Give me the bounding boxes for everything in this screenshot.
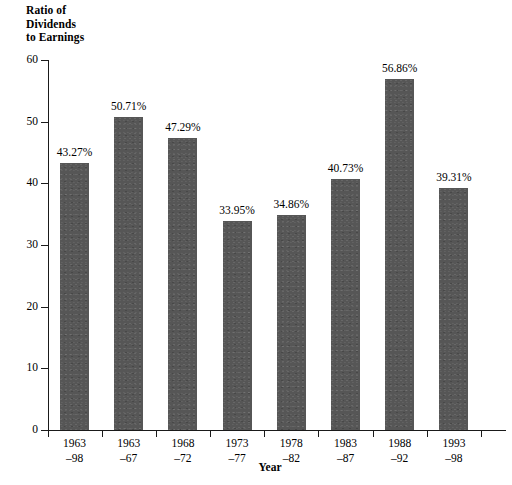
bar <box>439 188 468 430</box>
bar-value-label: 43.27% <box>40 147 110 159</box>
y-axis-tick <box>41 122 48 123</box>
bar-value-label: 34.86% <box>256 199 326 211</box>
x-axis-label: 1993–98 <box>419 436 489 466</box>
bar-value-label: 56.86% <box>365 63 435 75</box>
y-axis-tick <box>41 60 48 61</box>
x-axis-label-year: 1993 <box>419 436 489 451</box>
y-axis-tick <box>41 183 48 184</box>
y-axis-tick-label: 20 <box>0 301 38 313</box>
y-axis-line <box>48 60 49 431</box>
y-axis-tick-label: 10 <box>0 362 38 374</box>
bar <box>60 163 89 430</box>
y-axis-tick <box>41 307 48 308</box>
bar-value-label: 39.31% <box>419 172 489 184</box>
bar <box>223 221 252 430</box>
x-axis-title: Year <box>235 461 305 473</box>
bar <box>385 79 414 430</box>
dividend-payout-ratio-bar-chart: Ratio ofDividendsto Earnings 60504030201… <box>0 0 512 485</box>
bar <box>168 138 197 430</box>
y-axis-tick <box>41 245 48 246</box>
y-axis-tick <box>41 368 48 369</box>
bar <box>331 179 360 430</box>
bar <box>114 117 143 430</box>
y-axis-tick-label: 60 <box>0 54 38 66</box>
x-axis-label-range: –98 <box>419 451 489 466</box>
plot-area: 6050403020100 43.27%50.71%47.29%33.95%34… <box>0 0 512 485</box>
y-axis-tick <box>41 430 48 431</box>
bar-value-label: 40.73% <box>311 163 381 175</box>
y-axis-tick-label: 40 <box>0 177 38 189</box>
y-axis-tick-label: 50 <box>0 116 38 128</box>
y-axis-tick-label: 30 <box>0 239 38 251</box>
bar-value-label: 50.71% <box>94 101 164 113</box>
x-axis-line <box>48 430 506 431</box>
y-axis-tick-label: 0 <box>0 424 38 436</box>
bar <box>277 215 306 430</box>
bar-value-label: 47.29% <box>148 122 218 134</box>
